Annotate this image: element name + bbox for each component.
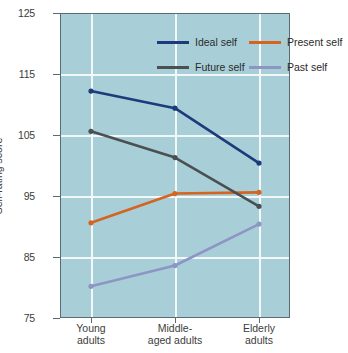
y-axis-tick-mark [53,257,60,258]
legend-swatch-present-self [249,41,281,44]
chart-legend: Ideal self Present self Future self Past… [157,36,348,73]
x-axis-tick-mark [259,318,260,323]
plot-area: Ideal self Present self Future self Past… [60,13,290,318]
legend-label-future-self: Future self [195,61,245,73]
y-axis-tick-mark [53,135,60,136]
y-axis-tick-mark [53,74,60,75]
x-axis-tick-label: Elderlyadults [211,322,307,346]
legend-label-ideal-self: Ideal self [195,36,237,48]
y-axis-tick-label: 125 [0,7,35,19]
y-axis-tick-mark [53,318,60,319]
x-axis-tick-label: Middle-aged adults [127,322,223,346]
x-axis-tick-label: Youngadults [43,322,139,346]
legend-item-present-self: Present self [249,36,348,48]
legend-label-present-self: Present self [287,36,342,48]
legend-swatch-ideal-self [157,41,189,44]
legend-item-past-self: Past self [249,61,348,73]
legend-item-future-self: Future self [157,61,249,73]
x-axis-tick-mark [91,318,92,323]
legend-swatch-past-self [249,66,281,69]
y-axis-tick-mark [53,13,60,14]
y-axis-tick-label: 95 [0,190,35,202]
y-axis-tick-mark [53,196,60,197]
y-axis-tick-label: 115 [0,68,35,80]
y-axis-tick-label: 105 [0,129,35,141]
gridline-vertical [91,14,93,317]
y-axis-title: Self-rating score [0,138,4,214]
legend-swatch-future-self [157,66,189,69]
legend-label-past-self: Past self [287,61,327,73]
y-axis-tick-label: 85 [0,251,35,263]
x-axis-tick-mark [175,318,176,323]
y-axis-tick-label: 75 [0,312,35,324]
legend-item-ideal-self: Ideal self [157,36,249,48]
